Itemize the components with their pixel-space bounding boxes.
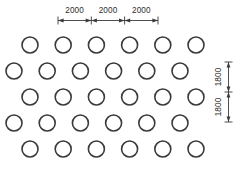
arrowhead-v2-top — [227, 92, 231, 98]
vertical-dimension-label-1: 1800 — [214, 67, 223, 86]
hole-circle — [172, 63, 188, 79]
hole-circle — [88, 141, 104, 157]
hole-circle — [6, 115, 22, 131]
hole-circle — [22, 141, 38, 157]
arrowhead-h2-left — [91, 19, 97, 23]
hole-circle — [55, 89, 71, 105]
arrowhead-v1-top — [227, 62, 231, 68]
vertical-dimension-group: 1800 1800 — [214, 62, 233, 122]
hole-circle — [155, 89, 171, 105]
hole-circle — [39, 115, 55, 131]
engineering-drawing: 2000 2000 2000 1800 1800 — [0, 0, 244, 174]
horizontal-dimension-label-1: 2000 — [65, 6, 84, 15]
hole-circle — [88, 89, 104, 105]
hole-circle — [155, 37, 171, 53]
vertical-dimension-label-2: 1800 — [214, 97, 223, 116]
hole-circle — [6, 63, 22, 79]
arrowhead-h3-left — [125, 19, 131, 23]
hole-circle — [106, 63, 122, 79]
hole-circle — [39, 63, 55, 79]
hole-circle — [188, 141, 204, 157]
hole-circle — [72, 63, 88, 79]
arrowhead-h1-right — [86, 19, 92, 23]
hole-circle — [172, 115, 188, 131]
arrowhead-h1-left — [58, 19, 64, 23]
hole-circle — [88, 37, 104, 53]
hole-circle — [22, 37, 38, 53]
hole-circle — [139, 63, 155, 79]
hole-circle — [22, 89, 38, 105]
hole-circle — [122, 141, 138, 157]
hole-circle — [106, 115, 122, 131]
arrowhead-h3-right — [152, 19, 158, 23]
arrowhead-h2-right — [119, 19, 125, 23]
hole-circle — [155, 141, 171, 157]
hole-circle — [55, 141, 71, 157]
hole-circle — [122, 89, 138, 105]
circle-grid — [6, 37, 204, 157]
hole-circle — [72, 115, 88, 131]
hole-pattern-svg: 2000 2000 2000 1800 1800 — [0, 0, 244, 174]
hole-circle — [188, 37, 204, 53]
arrowhead-v2-bottom — [227, 116, 231, 122]
horizontal-dimension-label-3: 2000 — [132, 6, 151, 15]
hole-circle — [55, 37, 71, 53]
horizontal-dimension-label-2: 2000 — [99, 6, 118, 15]
arrowhead-v1-bottom — [227, 86, 231, 92]
hole-circle — [139, 115, 155, 131]
hole-circle — [122, 37, 138, 53]
horizontal-dimension-group: 2000 2000 2000 — [58, 6, 158, 25]
hole-circle — [188, 89, 204, 105]
